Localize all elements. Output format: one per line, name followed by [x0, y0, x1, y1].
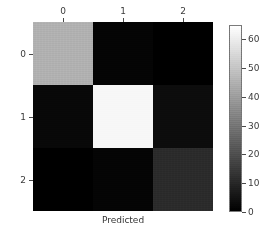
- heatmap-cell-0-1: [93, 22, 153, 85]
- confusion-matrix-figure: 012 012 Predicted True 0102030405060: [0, 0, 265, 235]
- colorbar-tick-0: [242, 212, 246, 213]
- heatmap-cell-2-1: [93, 148, 153, 211]
- colorbar-tick-2: [242, 154, 246, 155]
- colorbar-tick-3: [242, 126, 246, 127]
- y-axis-label-wrap: True: [10, 22, 22, 211]
- colorbar-tick-label-0: 0: [248, 207, 254, 217]
- x-tick-0: [63, 18, 64, 22]
- heatmap-cell-1-2: [153, 85, 213, 148]
- colorbar-tick-label-1: 10: [248, 178, 259, 188]
- colorbar-tick-label-2: 20: [248, 149, 259, 159]
- y-tick-0: [29, 54, 33, 55]
- colorbar-tick-5: [242, 68, 246, 69]
- heatmap-cell-0-2: [153, 22, 213, 85]
- y-tick-2: [29, 180, 33, 181]
- x-axis-label: Predicted: [33, 215, 213, 225]
- x-tick-2: [183, 18, 184, 22]
- colorbar-tick-4: [242, 97, 246, 98]
- heatmap-plot-area: [33, 22, 213, 211]
- colorbar-tick-label-3: 30: [248, 121, 259, 131]
- heatmap-cell-2-2: [153, 148, 213, 211]
- heatmap-cell-1-1: [93, 85, 153, 148]
- y-tick-1: [29, 117, 33, 118]
- x-tick-1: [123, 18, 124, 22]
- colorbar-tick-label-4: 40: [248, 92, 259, 102]
- x-tick-label-1: 1: [120, 6, 126, 16]
- x-tick-label-2: 2: [180, 6, 186, 16]
- heatmap-cell-1-0: [33, 85, 93, 148]
- colorbar: [229, 25, 242, 212]
- x-tick-label-0: 0: [60, 6, 66, 16]
- colorbar-tick-label-6: 60: [248, 34, 259, 44]
- heatmap-cell-2-0: [33, 148, 93, 211]
- colorbar-tick-label-5: 50: [248, 63, 259, 73]
- colorbar-tick-1: [242, 183, 246, 184]
- colorbar-tick-6: [242, 39, 246, 40]
- heatmap-cell-0-0: [33, 22, 93, 85]
